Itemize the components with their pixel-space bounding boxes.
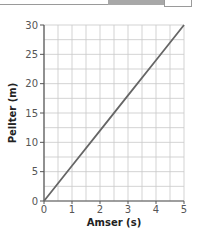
x-axis-title: Amser (s) (87, 217, 141, 228)
x-tick-labels: 012345 (41, 204, 187, 215)
y-tick-label: 15 (25, 108, 38, 119)
x-tick-label: 1 (69, 204, 75, 215)
y-tick-label: 20 (25, 78, 38, 89)
y-tick-label: 25 (25, 49, 38, 60)
x-tick-label: 3 (125, 204, 131, 215)
x-tick-label: 2 (97, 204, 103, 215)
y-tick-labels: 051015202530 (25, 20, 38, 207)
x-tick-label: 5 (181, 204, 187, 215)
y-axis-title: Pellter (m) (7, 83, 18, 144)
x-tick-label: 0 (41, 204, 47, 215)
distance-time-chart: 051015202530 012345 Amser (s) Pellter (m… (0, 0, 197, 237)
y-tick-label: 5 (32, 166, 38, 177)
y-tick-label: 10 (25, 137, 38, 148)
y-tick-label: 0 (32, 196, 38, 207)
x-tick-label: 4 (153, 204, 159, 215)
y-tick-label: 30 (25, 20, 38, 31)
